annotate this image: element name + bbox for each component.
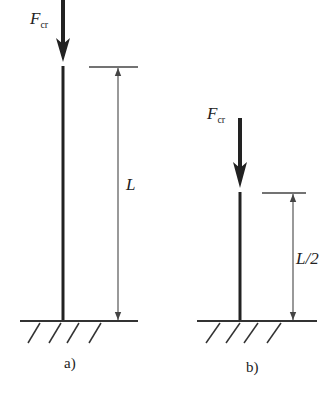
force-label: Fcr <box>29 9 49 30</box>
ground-hatch-icon <box>206 323 281 343</box>
panel-a: Fcr L a) <box>20 0 138 372</box>
caption-b: b) <box>246 359 259 376</box>
length-label: L <box>125 175 135 194</box>
caption-a: a) <box>64 355 76 372</box>
length-label: L/2 <box>295 249 319 268</box>
force-arrow-icon <box>56 0 70 62</box>
ground-hatch-icon <box>28 323 101 343</box>
buckling-diagram: Fcr L a) Fcr <box>0 0 327 393</box>
force-label: Fcr <box>206 104 226 125</box>
panel-b: Fcr L/2 b) <box>197 104 319 376</box>
force-arrow-icon <box>233 118 247 188</box>
